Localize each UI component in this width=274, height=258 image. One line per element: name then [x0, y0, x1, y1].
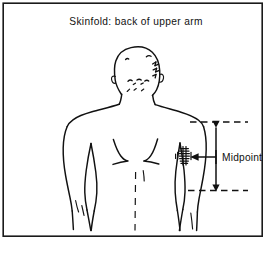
figure-title: Skinfold: back of upper arm — [69, 16, 202, 27]
diagram-canvas: Skinfold: back of upper arm — [0, 0, 274, 258]
midpoint-label: Midpoint — [222, 152, 262, 163]
right-arm-lower-outer — [197, 212, 198, 231]
figure-border — [3, 3, 262, 236]
skinfold-diagram-figure: Skinfold: back of upper arm — [0, 0, 274, 258]
